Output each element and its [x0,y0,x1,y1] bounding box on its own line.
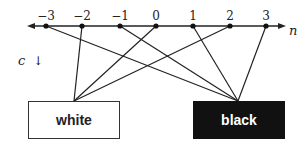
coloring-diagram: −3−2−10123 n c ↓ white black [0,0,308,148]
point-dot [79,23,84,28]
point-dot [190,23,195,28]
tick-label: −1 [111,9,129,23]
line-2-to-black [120,26,238,101]
line-4-to-black [193,26,238,101]
left-arrowhead-icon [27,23,35,29]
point-dot [263,23,268,28]
white-box: white [28,101,120,139]
down-arrow-icon: ↓ [33,54,43,68]
black-box: black [193,101,285,139]
tick-label: −3 [37,9,55,23]
point-dot [227,23,232,28]
point-dot [43,23,48,28]
tick-label: 0 [152,9,160,23]
tick-label: 2 [226,9,234,23]
right-arrowhead-icon [278,23,286,29]
tick-label: −2 [73,9,91,23]
point-dot [153,23,158,28]
tick-label: 3 [262,9,270,23]
axis-label-n: n [289,23,297,38]
point-dot [117,23,122,28]
tick-label: 1 [189,9,197,23]
line-5-to-white [74,26,230,101]
line-3-to-white [74,26,156,101]
line-6-to-black [238,26,266,101]
side-label-c: c [18,53,26,68]
mapping-lines [46,26,266,101]
